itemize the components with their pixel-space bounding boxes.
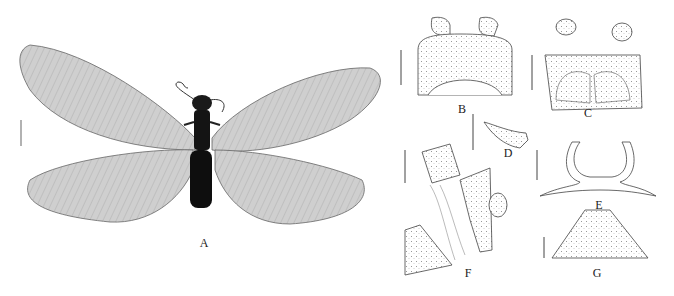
panel-label-c: C [578,106,598,121]
panel-label-b: B [452,102,472,117]
morphology-illustrations [0,0,674,296]
panel-label-f: F [458,266,478,281]
panel-label-g: G [587,266,607,281]
panel-label-d: D [498,146,518,161]
panel-label-e: E [589,198,609,213]
